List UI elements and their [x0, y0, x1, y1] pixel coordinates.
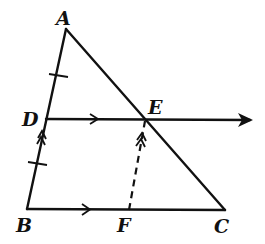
segment-bc — [27, 209, 225, 210]
geometry-diagram: A B C D E F — [0, 0, 265, 244]
label-d: D — [21, 108, 39, 130]
label-b: B — [15, 214, 32, 236]
label-e: E — [147, 96, 163, 118]
label-a: A — [54, 7, 71, 29]
label-f: F — [116, 214, 132, 236]
equal-tick-ad-icon — [49, 74, 68, 77]
label-c: C — [214, 215, 229, 237]
ray-de — [46, 119, 250, 120]
